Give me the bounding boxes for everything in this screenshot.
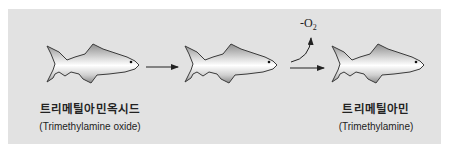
oxygen-symbol: -O [300,16,313,30]
label-trimethylamine-oxide: 트리메틸아민옥시드 (Trimethylamine oxide) [30,100,150,132]
oxygen-release-arrow-icon [291,38,311,62]
label-right-english: (Trimethylamine) [326,121,426,132]
label-left-english: (Trimethylamine oxide) [30,121,150,132]
oxygen-byproduct-label: -O2 [300,16,317,32]
oxygen-subscript: 2 [313,23,317,32]
label-right-korean: 트리메틸아민 [326,100,426,116]
label-trimethylamine: 트리메틸아민 (Trimethylamine) [326,100,426,132]
label-left-korean: 트리메틸아민옥시드 [30,100,150,116]
